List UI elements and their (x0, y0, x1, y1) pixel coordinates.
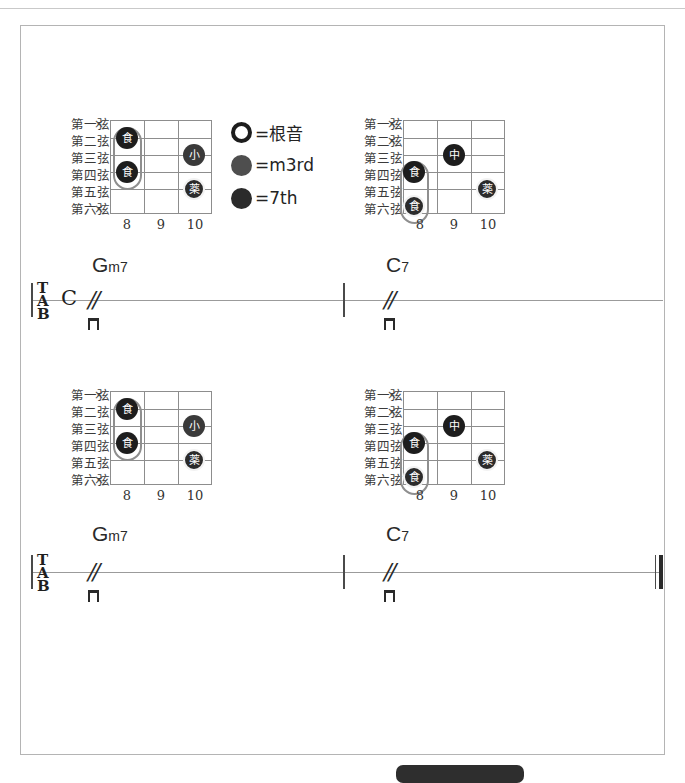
string-label-4: 第四弦 (364, 167, 403, 184)
tab-clef: T A B (37, 554, 49, 593)
string-label-3: 第三弦 (364, 150, 403, 167)
bottom-page-tab (396, 765, 524, 783)
fret-number-10: 10 (178, 218, 212, 232)
fret-number-8: 8 (110, 489, 144, 503)
measure-barline (343, 283, 345, 317)
downstroke-marker-measure-2 (384, 318, 395, 330)
chord-name-gm7-2: Gm7 (92, 522, 128, 546)
mute-marker-string-2: × (387, 406, 397, 418)
slash-notation-measure-2: // (384, 288, 394, 311)
time-signature: C (61, 288, 77, 309)
string-label-2: 第二弦 (71, 133, 110, 150)
string-label-3: 第三弦 (71, 150, 110, 167)
string-label-2: 第二弦 (71, 404, 110, 421)
start-barline (31, 555, 33, 589)
fret-number-8: 8 (403, 218, 437, 232)
final-barline-thick (659, 555, 663, 589)
top-rule (0, 8, 685, 9)
string-label-2: 第二弦 (364, 133, 403, 150)
fret-number-9: 9 (437, 489, 471, 503)
finger-dot-index-string4: 食 (403, 432, 425, 454)
legend-row-root: =根音 (231, 118, 303, 146)
fret-number-10: 10 (471, 218, 505, 232)
finger-dot-index-string6: 食 (403, 466, 425, 488)
slash-notation-measure-1: // (88, 288, 98, 311)
measure-barline (343, 555, 345, 589)
finger-dot-pinky-string3: 小 (183, 144, 205, 166)
finger-dot-ring-string5: 薬 (476, 178, 498, 200)
downstroke-marker-measure-2 (384, 590, 395, 602)
legend-row-m3rd: =m3rd (231, 151, 314, 179)
chord-quality: m7 (108, 259, 127, 275)
mute-marker-string-1: × (387, 389, 397, 401)
start-barline (31, 283, 33, 317)
legend-swatch-7th-icon (231, 188, 252, 209)
string-label-6: 第六弦 (71, 201, 110, 218)
finger-dot-index-string4: 食 (116, 161, 138, 183)
finger-dot-index-string4: 食 (403, 161, 425, 183)
finger-dot-index-string2: 食 (116, 398, 138, 420)
string-label-2: 第二弦 (364, 404, 403, 421)
mute-marker-string-2: × (387, 135, 397, 147)
chord-root: G (92, 253, 108, 276)
string-label-3: 第三弦 (364, 421, 403, 438)
fret-number-10: 10 (471, 489, 505, 503)
mute-marker-string-1: × (387, 118, 397, 130)
chord-quality: m7 (108, 528, 127, 544)
string-label-6: 第六弦 (364, 201, 403, 218)
legend-label-7th: =7th (255, 188, 298, 208)
string-label-6: 第六弦 (71, 472, 110, 489)
string-label-4: 第四弦 (71, 438, 110, 455)
finger-dot-ring-string5: 薬 (476, 449, 498, 471)
legend-swatch-root-icon (231, 122, 252, 143)
finger-dot-index-string2: 食 (116, 127, 138, 149)
fret-number-9: 9 (144, 218, 178, 232)
mute-marker-string-6: × (94, 203, 104, 215)
string-label-4: 第四弦 (364, 438, 403, 455)
mute-marker-string-6: × (94, 474, 104, 486)
string-label-6: 第六弦 (364, 472, 403, 489)
final-barline-thin (655, 555, 656, 589)
chord-root: C (386, 522, 401, 545)
staff-line (31, 572, 663, 573)
chord-name-c7-2: C7 (386, 522, 409, 546)
string-label-5: 第五弦 (364, 184, 403, 201)
legend-row-7th: =7th (231, 184, 298, 212)
legend-swatch-m3rd-icon (231, 155, 252, 176)
fret-number-8: 8 (403, 489, 437, 503)
slash-notation-measure-1: // (88, 560, 98, 583)
chord-root: G (92, 522, 108, 545)
fret-number-10: 10 (178, 489, 212, 503)
string-label-1: 第一弦 (364, 387, 403, 404)
finger-dot-index-string4: 食 (116, 432, 138, 454)
chord-root: C (386, 253, 401, 276)
finger-dot-pinky-string3: 小 (183, 415, 205, 437)
string-label-1: 第一弦 (71, 116, 110, 133)
tab-clef: T A B (37, 282, 49, 321)
string-label-5: 第五弦 (364, 455, 403, 472)
mute-marker-string-1: × (94, 389, 104, 401)
string-label-4: 第四弦 (71, 167, 110, 184)
string-label-5: 第五弦 (71, 184, 110, 201)
finger-dot-ring-string5: 薬 (183, 178, 205, 200)
finger-dot-index-string6: 食 (403, 195, 425, 217)
chord-name-gm7-1: Gm7 (92, 253, 128, 277)
chord-name-c7-1: C7 (386, 253, 409, 277)
chord-quality: 7 (401, 528, 409, 544)
finger-dot-middle-string3: 中 (443, 415, 465, 437)
mute-marker-string-1: × (94, 118, 104, 130)
downstroke-marker-measure-1 (88, 318, 99, 330)
string-label-1: 第一弦 (71, 387, 110, 404)
string-label-3: 第三弦 (71, 421, 110, 438)
slash-notation-measure-2: // (384, 560, 394, 583)
fret-number-8: 8 (110, 218, 144, 232)
downstroke-marker-measure-1 (88, 590, 99, 602)
finger-dot-middle-string3: 中 (443, 144, 465, 166)
staff-line (31, 300, 663, 301)
legend-label-m3rd: =m3rd (255, 155, 314, 175)
legend-label-root: =根音 (255, 120, 303, 145)
fret-number-9: 9 (437, 218, 471, 232)
string-label-5: 第五弦 (71, 455, 110, 472)
finger-dot-ring-string5: 薬 (183, 449, 205, 471)
